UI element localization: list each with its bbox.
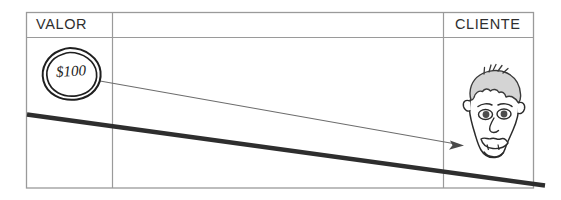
column-header-cliente: CLIENTE — [455, 16, 520, 32]
table-outer-border — [27, 13, 534, 189]
coin-amount-label: $100 — [41, 61, 102, 81]
column-header-valor: VALOR — [36, 16, 87, 32]
diagram-canvas: VALOR CLIENTE $100 — [0, 0, 561, 200]
